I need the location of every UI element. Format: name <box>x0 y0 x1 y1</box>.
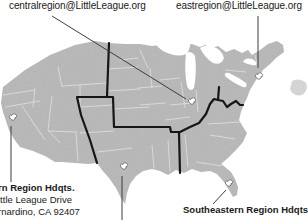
eastern-region-hq-marker-icon <box>255 73 262 79</box>
east-region-email-label: eastregion@LittleLeague.org <box>176 0 302 11</box>
lake-michigan-shape <box>185 52 196 90</box>
western-hq-address-line2: rnardino, CA 92407 <box>0 206 80 218</box>
little-league-regions-map-image: centralregion@LittleLeague.org eastregio… <box>0 0 308 220</box>
southeastern-region-hq-label: Southeastern Region Hdqts. <box>183 204 308 215</box>
western-hq-title: rn Region Hdqts. <box>0 182 80 194</box>
coastal-landmass-fragment <box>290 79 307 95</box>
southeastern-region-pointer-line <box>213 190 226 204</box>
central-region-email-label: centralregion@LittleLeague.org <box>9 0 146 11</box>
western-hq-address-line1: ittle League Drive <box>0 194 80 206</box>
western-region-hq-label: rn Region Hdqts. ittle League Drive rnar… <box>0 182 80 218</box>
